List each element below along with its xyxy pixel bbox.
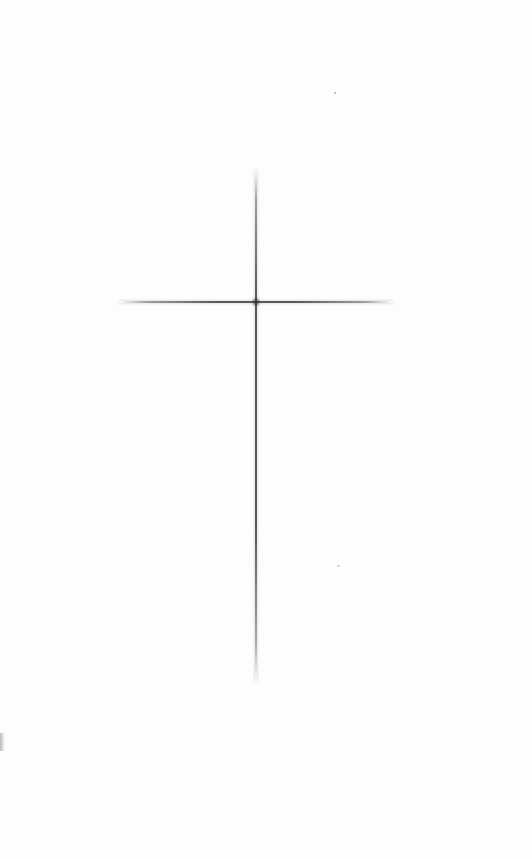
- blank-canvas: [0, 0, 532, 859]
- cross-vertical-bar: [255, 170, 257, 682]
- speck-artifact: [334, 92, 336, 94]
- edge-smudge-artifact: [0, 733, 5, 751]
- speck-artifact: [337, 565, 340, 567]
- cross-intersection: [253, 299, 259, 305]
